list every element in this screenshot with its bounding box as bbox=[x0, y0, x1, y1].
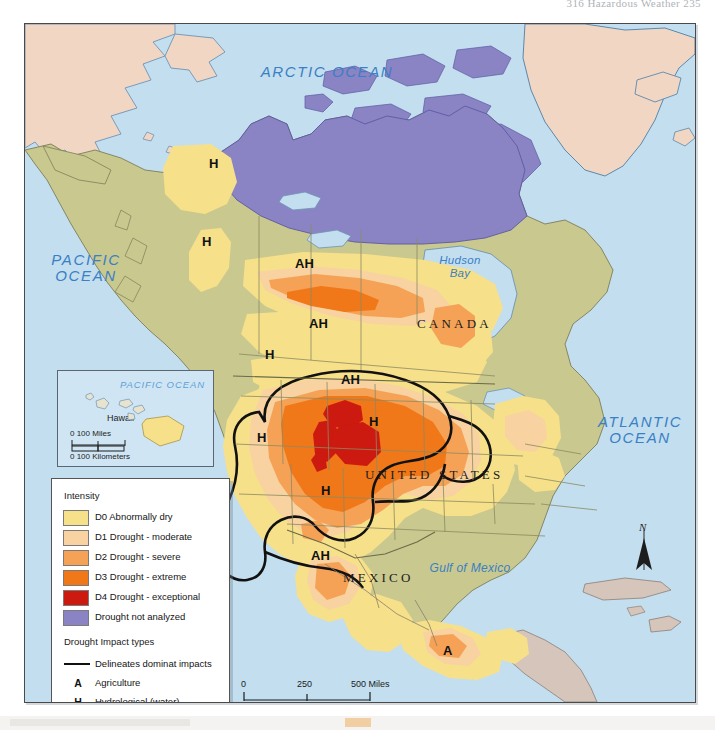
hawaii-island-lanai bbox=[128, 413, 135, 420]
legend-impact-title: Drought Impact types bbox=[64, 636, 154, 647]
hawaii-island-molokai bbox=[119, 399, 133, 408]
hawaii-island-kauai bbox=[86, 393, 94, 400]
legend-hydrological-label: Hydrological (water) bbox=[95, 695, 179, 703]
hawaii-scale-km-label: 0 100 Kilometers bbox=[70, 452, 130, 461]
page-bleed-strip bbox=[0, 716, 715, 730]
legend-d1-swatch bbox=[63, 530, 89, 546]
legend-d4-swatch bbox=[63, 590, 89, 606]
bleed-block-left bbox=[10, 719, 190, 726]
scale-miles-tick-250: 250 bbox=[297, 679, 312, 689]
hawaii-inset[interactable]: PACIFIC OCEAN Hawaii 0 100 Miles bbox=[57, 370, 214, 467]
legend-d4-label: D4 Drought - exceptional bbox=[95, 590, 200, 604]
hawaii-island-maui bbox=[133, 405, 145, 414]
legend-d3-swatch bbox=[63, 570, 89, 586]
legend-not-analyzed-label: Drought not analyzed bbox=[95, 610, 185, 624]
scale-miles-tick-500: 500 Miles bbox=[351, 679, 390, 689]
hawaii-scale-miles-label: 0 100 Miles bbox=[70, 429, 111, 438]
dominant-line-icon bbox=[64, 663, 90, 665]
drought-map[interactable]: ARCTIC OCEAN PACIFICOCEAN ATLANTICOCEAN … bbox=[24, 23, 696, 703]
page-root: 316 Hazardous Weather 235 bbox=[0, 0, 715, 730]
legend-not-analyzed-swatch bbox=[63, 610, 89, 626]
legend-agriculture-label: Agriculture bbox=[95, 676, 140, 690]
north-arrow-label: N bbox=[639, 521, 646, 533]
legend-d2-label: D2 Drought - severe bbox=[95, 550, 181, 564]
scale-miles-tick-0: 0 bbox=[241, 679, 246, 689]
hawaii-island-oahu bbox=[96, 398, 109, 409]
legend-hydrological-key: H bbox=[65, 695, 91, 703]
map-scale-bars: 0 250 500 Miles 0 250 500 Kilometers bbox=[241, 679, 421, 703]
legend-dominant-line-label: Delineates dominat impacts bbox=[95, 657, 212, 671]
north-arrow: N bbox=[633, 522, 667, 582]
legend-d1-label: D1 Drought - moderate bbox=[95, 530, 192, 544]
running-header: 316 Hazardous Weather 235 bbox=[567, 0, 701, 9]
legend-d2-swatch bbox=[63, 550, 89, 566]
bleed-block-center bbox=[345, 718, 371, 727]
legend-d3-label: D3 Drought - extreme bbox=[95, 570, 186, 584]
scale-miles-bar bbox=[242, 691, 392, 703]
legend-intensity-title: Intensity bbox=[64, 490, 99, 501]
hawaii-island-bigisland bbox=[142, 416, 184, 446]
legend-d0-swatch bbox=[63, 510, 89, 526]
legend-agriculture-key: A bbox=[65, 676, 91, 690]
legend-d0-label: D0 Abnormally dry bbox=[95, 510, 173, 524]
map-legend[interactable]: Intensity D0 Abnormally dry D1 Drought -… bbox=[51, 478, 230, 703]
